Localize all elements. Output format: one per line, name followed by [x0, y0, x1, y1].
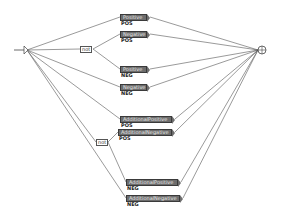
box-arrow-icon: [172, 116, 175, 124]
box-output: NEG: [127, 186, 139, 191]
box-arrow-icon: [147, 14, 150, 22]
box-output: POS: [121, 38, 133, 43]
box-arrow-icon: [178, 179, 181, 187]
context-box[interactable]: not: [80, 46, 92, 53]
box-arrow-icon: [147, 66, 150, 74]
box-output: POS: [121, 21, 133, 26]
box-output: NEG: [121, 73, 133, 78]
box-arrow-icon: [147, 84, 150, 92]
box-arrow-icon: [172, 129, 175, 137]
final-state-circle-icon: [258, 46, 266, 54]
context-box[interactable]: not: [96, 139, 108, 146]
transitions: [27, 17, 258, 198]
box-output: NEG: [127, 202, 139, 207]
box-arrow-icon: [147, 31, 150, 39]
box-arrow-icon: [180, 195, 183, 203]
initial-state-arrow-icon: [14, 46, 28, 54]
box-output: POS: [119, 136, 131, 141]
box-output: POS: [121, 123, 133, 128]
box-output: NEG: [121, 91, 133, 96]
